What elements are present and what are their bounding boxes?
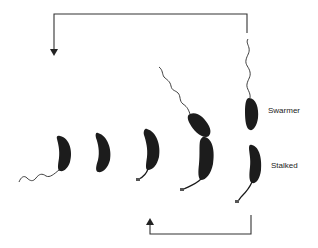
swarmer-label: Swarmer — [268, 106, 300, 115]
stage-3-stalked-cell — [136, 129, 160, 181]
stage-5-divided-cells — [235, 39, 261, 203]
holdfast-icon — [235, 200, 239, 203]
stage-4-predivisional-cell — [159, 67, 214, 191]
stage-1-swarmer-cell — [19, 136, 71, 182]
holdfast-icon — [136, 178, 140, 181]
swarmer-daughter-cell — [245, 39, 258, 130]
holdfast-icon — [180, 188, 184, 191]
stalked-label: Stalked — [271, 161, 298, 170]
arrow-down-icon — [50, 49, 58, 56]
diagram-canvas — [0, 0, 318, 248]
arrow-up-icon — [146, 218, 154, 225]
caulobacter-cycle-diagram: Swarmer Stalked — [0, 0, 318, 248]
bottom-cycle-arrow — [146, 215, 251, 234]
stalked-daughter-cell — [235, 145, 261, 203]
top-cycle-arrow — [50, 14, 247, 56]
stage-2-cell — [96, 133, 111, 172]
